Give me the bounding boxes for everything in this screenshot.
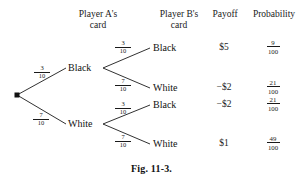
probability-black-white: 21 100 bbox=[258, 79, 288, 95]
node-player-a-black: Black bbox=[68, 62, 91, 73]
probability-tree-figure: Player A's card Player B's card Payoff P… bbox=[0, 0, 303, 181]
probability-white-black-numerator: 21 bbox=[258, 96, 288, 103]
branch-prob-white-white: 7 10 bbox=[115, 134, 131, 149]
probability-white-white: 49 100 bbox=[258, 135, 288, 151]
header-player-b-line1: Player B's bbox=[160, 9, 198, 19]
header-payoff-label: Payoff bbox=[212, 9, 237, 19]
branch-prob-white-white-denominator: 10 bbox=[115, 142, 131, 149]
leaf-player-b-card-white-white: White bbox=[153, 138, 177, 149]
header-player-a-card: Player A's card bbox=[58, 9, 138, 31]
branch-prob-root-black-numerator: 3 bbox=[34, 65, 50, 72]
header-payoff: Payoff bbox=[202, 9, 248, 20]
branch-prob-white-black: 3 10 bbox=[115, 101, 131, 116]
probability-black-black-denominator: 100 bbox=[258, 48, 288, 55]
branch-prob-root-white-numerator: 7 bbox=[33, 112, 49, 119]
header-player-a-line1: Player A's bbox=[79, 9, 117, 19]
branch-prob-white-white-numerator: 7 bbox=[115, 134, 131, 141]
header-player-a-line2: card bbox=[90, 20, 106, 30]
header-probability-label: Probability bbox=[253, 9, 295, 19]
probability-black-black: 9 100 bbox=[258, 39, 288, 55]
leaf-player-b-card-black-black: Black bbox=[153, 42, 176, 53]
branch-prob-black-black-numerator: 3 bbox=[115, 40, 131, 47]
header-probability: Probability bbox=[246, 9, 302, 20]
branch-prob-white-black-numerator: 3 bbox=[115, 101, 131, 108]
probability-white-white-numerator: 49 bbox=[258, 135, 288, 142]
branch-prob-root-black: 3 10 bbox=[34, 65, 50, 80]
branch-prob-black-black-denominator: 10 bbox=[115, 48, 131, 55]
figure-caption: Fig. 11-3. bbox=[0, 163, 303, 174]
branch-prob-black-white: 7 10 bbox=[115, 78, 131, 93]
root-node-dot bbox=[15, 93, 20, 98]
payoff-white-black: −$2 bbox=[204, 99, 244, 109]
branch-prob-root-white: 7 10 bbox=[33, 112, 49, 127]
payoff-white-white: $1 bbox=[204, 138, 244, 148]
branch-prob-root-white-denominator: 10 bbox=[33, 120, 49, 127]
leaf-player-b-card-white-black: Black bbox=[153, 99, 176, 110]
probability-white-black-denominator: 100 bbox=[258, 105, 288, 112]
branch-prob-black-black: 3 10 bbox=[115, 40, 131, 55]
probability-white-black: 21 100 bbox=[258, 96, 288, 112]
probability-black-white-denominator: 100 bbox=[258, 88, 288, 95]
probability-white-white-denominator: 100 bbox=[258, 144, 288, 151]
branch-prob-root-black-denominator: 10 bbox=[34, 73, 50, 80]
payoff-black-white: −$2 bbox=[204, 82, 244, 92]
branch-prob-black-white-denominator: 10 bbox=[115, 86, 131, 93]
branch-prob-white-black-denominator: 10 bbox=[115, 109, 131, 116]
node-player-a-white: White bbox=[68, 118, 92, 129]
payoff-black-black: $5 bbox=[204, 42, 244, 52]
probability-black-white-numerator: 21 bbox=[258, 79, 288, 86]
branch-prob-black-white-numerator: 7 bbox=[115, 78, 131, 85]
probability-black-black-numerator: 9 bbox=[258, 39, 288, 46]
leaf-player-b-card-black-white: White bbox=[153, 82, 177, 93]
header-player-b-line2: card bbox=[171, 20, 187, 30]
